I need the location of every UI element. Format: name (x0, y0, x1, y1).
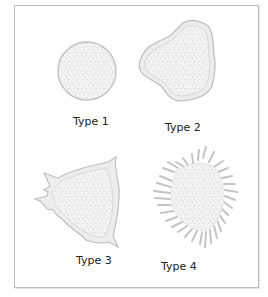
type4-label: Type 4 (161, 260, 197, 273)
type3-spiked-edge-shape (35, 157, 119, 247)
shapes-canvas (0, 0, 268, 297)
type1-label: Type 1 (73, 115, 109, 128)
type4-spiculated-shape (154, 147, 237, 247)
type2-label: Type 2 (165, 121, 201, 134)
type2-lobed-shape (139, 20, 215, 101)
type1-circle-shape (58, 42, 116, 100)
type3-label: Type 3 (76, 254, 112, 267)
